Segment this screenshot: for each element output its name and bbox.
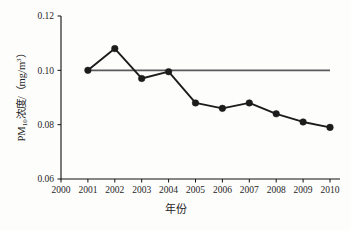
x-tick-label: 2004 bbox=[159, 185, 178, 195]
data-point bbox=[192, 100, 199, 107]
data-point bbox=[219, 105, 226, 112]
data-point bbox=[327, 124, 334, 131]
x-tick-label: 2000 bbox=[52, 185, 71, 195]
y-tick-label: 0.06 bbox=[37, 174, 54, 184]
data-point bbox=[246, 100, 253, 107]
data-point bbox=[273, 111, 280, 118]
x-tick-label: 2005 bbox=[186, 185, 205, 195]
data-point bbox=[300, 119, 307, 126]
chart-figure: PM10浓度/（mg/m3） 0.060.080.100.12 20002001… bbox=[0, 0, 351, 231]
y-tick-label: 0.12 bbox=[37, 11, 54, 21]
x-tick-label: 2007 bbox=[240, 185, 259, 195]
x-axis-title: 年份 bbox=[0, 200, 351, 216]
x-tick-label: 2001 bbox=[78, 185, 97, 195]
data-point bbox=[112, 45, 119, 52]
x-tick-label: 2010 bbox=[321, 185, 340, 195]
y-tick-label: 0.10 bbox=[37, 66, 54, 76]
y-tick-labels: 0.060.080.100.12 bbox=[37, 11, 54, 184]
x-tick-labels: 2000200120022003200420052006200720082009… bbox=[52, 185, 340, 195]
data-point bbox=[138, 75, 145, 82]
series-markers-pm10 bbox=[85, 45, 334, 130]
x-tick-label: 2003 bbox=[132, 185, 151, 195]
y-tick-label: 0.08 bbox=[37, 120, 54, 130]
series-line-pm10 bbox=[88, 49, 330, 128]
x-tick-label: 2006 bbox=[213, 185, 232, 195]
axes bbox=[58, 16, 341, 183]
data-point bbox=[85, 67, 92, 74]
x-tick-label: 2002 bbox=[105, 185, 124, 195]
x-tick-label: 2008 bbox=[267, 185, 286, 195]
data-point bbox=[165, 68, 172, 75]
line-chart-plot: 0.060.080.100.12 20002001200220032004200… bbox=[0, 0, 351, 231]
axis-spine bbox=[61, 16, 340, 179]
x-tick-label: 2009 bbox=[294, 185, 313, 195]
